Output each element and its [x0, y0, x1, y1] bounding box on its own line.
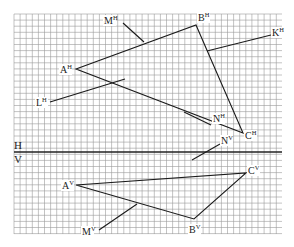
grid	[14, 14, 282, 234]
horizontal-line-k	[207, 35, 271, 51]
vertical-line-m	[99, 204, 137, 230]
vertical-triangle-abc	[76, 173, 246, 219]
projection-diagram: H V AHBHCHKHMHLHNH AVBVCVNVMV	[0, 0, 294, 247]
plane-label-horizontal: H	[14, 139, 22, 151]
horizontal-line-n	[184, 112, 211, 125]
plane-label-vertical: V	[14, 153, 22, 165]
horizontal-projection: AHBHCHKHMHLHNH	[35, 11, 284, 141]
horizontal-line-l	[50, 79, 125, 102]
